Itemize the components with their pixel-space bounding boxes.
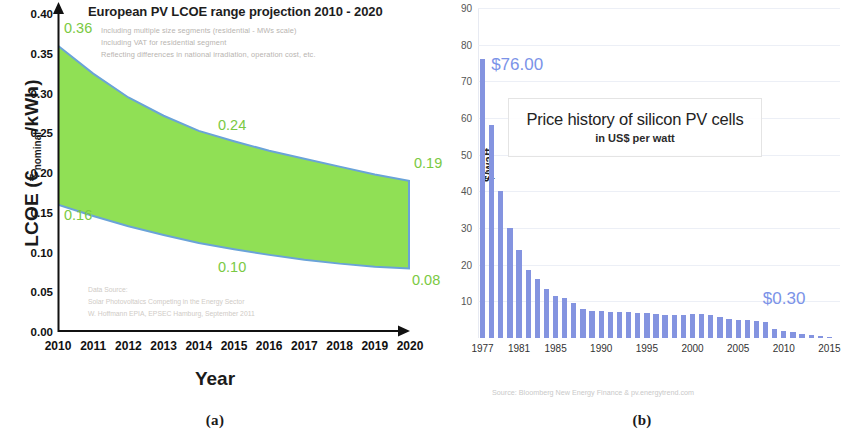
panel-b-bar [690, 314, 695, 338]
panel-b-bar [626, 312, 631, 338]
panel-b-bar [763, 322, 768, 338]
panel-b-bar [553, 296, 558, 338]
panel-b-y-tick: 60 [461, 113, 472, 124]
panel-b-bar [699, 314, 704, 338]
panel-a-y-tick: 0.00 [31, 326, 53, 338]
panel-a-y-tick: 0.25 [31, 127, 53, 139]
panel-b-bar [672, 315, 677, 338]
panel-b-bar [662, 315, 667, 338]
panel-b-bar [571, 303, 576, 338]
panel-b-bar [681, 315, 686, 338]
panel-b-gridline [478, 265, 840, 266]
panel-a-x-tick: 2018 [326, 339, 353, 353]
panel-a-x-axis-label: Year [0, 368, 430, 390]
panel-a-y-tick: 0.10 [31, 247, 53, 259]
panel-b-bar [653, 314, 658, 338]
panel-b-bar [526, 270, 531, 338]
panel-b-x-tick: 1985 [544, 343, 566, 354]
panel-b-bar [589, 311, 594, 339]
panel-b-x-tick: 2015 [818, 343, 840, 354]
panel-a-x-tick: 2017 [291, 339, 318, 353]
panel-b-x-tick: 1977 [471, 343, 493, 354]
panel-b-bar [754, 321, 759, 338]
panel-b-bar [480, 59, 485, 338]
panel-b-source-note: Source: Bloomberg New Energy Finance & p… [492, 388, 694, 397]
panel-b-bar [809, 335, 814, 338]
panel-b-bar [544, 289, 549, 339]
panel-b-bar [562, 298, 567, 338]
panel-a-y-tick: 0.05 [31, 286, 53, 298]
panel-a-lcoe-projection: LCOE (€nominal/kWh) Year European PV LCO… [0, 0, 430, 445]
panel-a-y-tick: 0.15 [31, 207, 53, 219]
panel-b-x-tick: 1995 [636, 343, 658, 354]
panel-b-x-tick: 2010 [773, 343, 795, 354]
panel-b-y-tick: 90 [461, 3, 472, 14]
panel-b-bar [644, 313, 649, 338]
panel-b-bar [717, 317, 722, 338]
panel-b-bar [736, 320, 741, 338]
panel-b-chart-title: Price history of silicon PV cells [515, 110, 755, 129]
panel-b-y-tick: 30 [461, 223, 472, 234]
panel-b-gridline [478, 191, 840, 192]
panel-b-bar [799, 334, 804, 338]
panel-b-value-callout: $0.30 [763, 289, 806, 309]
panel-a-x-tick: 2016 [256, 339, 283, 353]
panel-a-x-tick: 2013 [150, 339, 177, 353]
panel-b-gridline [478, 81, 840, 82]
panel-a-value-annotation: 0.24 [218, 117, 246, 133]
panel-b-x-tick: 2005 [727, 343, 749, 354]
panel-b-gridline [478, 45, 840, 46]
panel-b-bar [535, 279, 540, 338]
panel-b-bar [781, 331, 786, 338]
panel-b-x-tick: 1981 [508, 343, 530, 354]
panel-b-price-history: $/watt 102030405060708090197719811985199… [430, 0, 854, 445]
panel-a-value-annotation: 0.16 [64, 207, 92, 223]
panel-a-x-tick: 2012 [115, 339, 142, 353]
panel-b-bar [635, 313, 640, 338]
panel-b-bar [745, 320, 750, 338]
panel-b-bar [617, 312, 622, 338]
panel-b-gridline [478, 228, 840, 229]
panel-a-caption: (a) [0, 412, 430, 429]
panel-b-bar [790, 332, 795, 338]
panel-b-y-tick: 20 [461, 259, 472, 270]
panel-a-y-tick: 0.40 [31, 8, 53, 20]
panel-b-bar [818, 336, 823, 338]
panel-a-x-tick: 2010 [45, 339, 72, 353]
panel-b-bar [827, 337, 832, 339]
panel-a-x-tick: 2015 [221, 339, 248, 353]
panel-b-x-tick: 1990 [590, 343, 612, 354]
panel-a-axes [58, 2, 410, 332]
panel-a-x-tick: 2019 [361, 339, 388, 353]
panel-a-x-tick: 2011 [80, 339, 106, 353]
panel-b-bar [507, 228, 512, 338]
panel-b-y-tick: 80 [461, 39, 472, 50]
panel-a-y-tick: 0.35 [31, 48, 53, 60]
panel-b-bar [489, 125, 494, 338]
panel-b-plot-area: $/watt 102030405060708090197719811985199… [478, 8, 834, 338]
figure-root: LCOE (€nominal/kWh) Year European PV LCO… [0, 0, 854, 445]
panel-a-plot-area: 0.000.050.100.150.200.250.300.350.402010… [58, 14, 410, 332]
panel-b-bar [580, 309, 585, 338]
panel-b-y-axis-line [478, 8, 479, 338]
panel-b-bar [516, 250, 521, 338]
panel-b-title-box: Price history of silicon PV cells in US$… [508, 98, 762, 157]
panel-b-caption: (b) [430, 412, 854, 429]
panel-b-bar [726, 319, 731, 338]
panel-a-y-tick: 0.30 [31, 88, 53, 100]
panel-b-bar [772, 329, 777, 338]
panel-b-y-tick: 10 [461, 296, 472, 307]
panel-b-bar [599, 311, 604, 338]
panel-a-x-tick: 2014 [185, 339, 212, 353]
panel-b-y-tick: 70 [461, 76, 472, 87]
panel-a-x-tick: 2020 [397, 339, 424, 353]
panel-b-value-callout: $76.00 [491, 55, 543, 75]
panel-a-y-tick: 0.20 [31, 167, 53, 179]
panel-b-chart-subtitle: in US$ per watt [515, 132, 755, 144]
panel-a-value-annotation: 0.36 [64, 20, 92, 36]
panel-a-value-annotation: 0.10 [218, 259, 246, 275]
panel-b-y-tick: 40 [461, 186, 472, 197]
panel-b-bar [498, 191, 503, 338]
panel-b-y-tick: 50 [461, 149, 472, 160]
panel-b-gridline [478, 8, 840, 9]
